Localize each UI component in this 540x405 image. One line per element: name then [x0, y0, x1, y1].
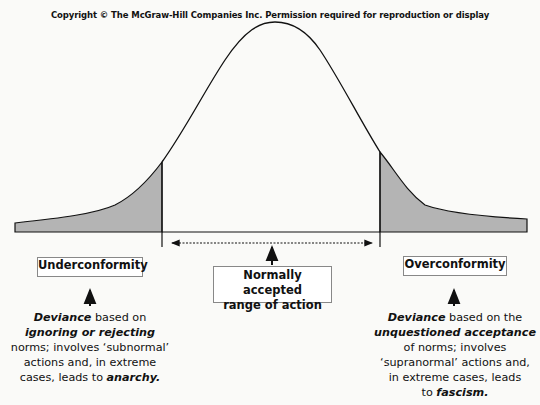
normal-range-line2: range of action — [214, 298, 331, 313]
desc-text: cases, leads to — [20, 371, 107, 384]
underconformity-label: Underconformity — [38, 258, 148, 272]
underconformity-box: Underconformity — [37, 257, 143, 277]
desc-text: actions and, in extreme — [5, 355, 175, 370]
desc-text: norms; involves ‘subnormal’ — [5, 340, 175, 355]
normal-range-line1: Normally accepted — [214, 268, 331, 298]
overconformity-description: Deviance based on the unquestioned accep… — [365, 310, 540, 400]
desc-text: of norms; involves — [365, 340, 540, 355]
right-tail-shaded-area — [380, 152, 527, 232]
deviance-term: Deviance — [388, 311, 446, 324]
ignoring-rejecting-term: ignoring or rejecting — [25, 326, 155, 339]
left-tail-shaded-area — [15, 162, 162, 232]
bell-curve-line — [162, 22, 380, 162]
unquestioned-acceptance-term: unquestioned acceptance — [374, 326, 536, 339]
desc-text: based on the — [446, 311, 523, 324]
desc-text: to — [422, 386, 437, 399]
underconformity-description: Deviance based on ignoring or rejecting … — [5, 310, 175, 385]
overconformity-label: Overconformity — [404, 257, 505, 271]
overconformity-box: Overconformity — [403, 256, 507, 276]
normal-range-box: Normally accepted range of action — [213, 266, 332, 303]
desc-text: based on — [91, 311, 146, 324]
desc-text: in extreme cases, leads — [365, 370, 540, 385]
anarchy-term: anarchy. — [107, 371, 161, 384]
desc-text: ‘supranormal’ actions and, — [365, 355, 540, 370]
deviance-term: Deviance — [34, 311, 92, 324]
fascism-term: fascism. — [436, 386, 488, 399]
